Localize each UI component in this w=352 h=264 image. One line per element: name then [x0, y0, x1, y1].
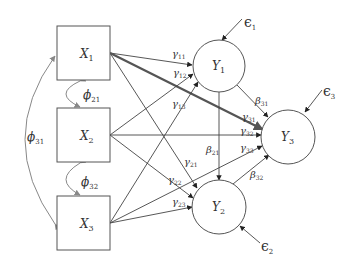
node-x3: X3 — [57, 196, 110, 250]
label-gamma-33: γ33 — [240, 142, 254, 154]
covariance-arc-phi32 — [66, 163, 80, 195]
label-phi-31: ϕ31 — [27, 130, 44, 146]
label-gamma-23: γ23 — [172, 196, 186, 208]
node-x2: X2 — [57, 108, 110, 162]
label-epsilon-3: ϵ3 — [323, 83, 335, 101]
covariance-arc-phi21 — [66, 81, 80, 107]
label-beta-32: β32 — [249, 169, 264, 181]
node-y3: Y3 — [261, 110, 315, 164]
label-phi-32: ϕ32 — [81, 175, 98, 191]
label-epsilon-2: ϵ2 — [261, 238, 273, 256]
node-y2: Y2 — [192, 180, 246, 234]
node-y1: Y1 — [193, 40, 245, 92]
label-beta-31: β31 — [254, 95, 268, 107]
error-arrow-e2 — [240, 226, 260, 243]
error-arrow-e1 — [222, 19, 242, 40]
label-beta-21: β21 — [205, 144, 219, 156]
path-gamma-22 — [110, 135, 193, 198]
label-epsilon-1: ϵ1 — [244, 14, 256, 32]
node-x1: X1 — [57, 26, 110, 80]
label-phi-21: ϕ21 — [83, 88, 100, 104]
path-gamma-23 — [110, 207, 192, 223]
label-gamma-11: γ11 — [172, 48, 186, 60]
label-gamma-31: γ31 — [242, 111, 256, 123]
label-gamma-13: γ13 — [172, 98, 186, 110]
label-gamma-21: γ21 — [184, 156, 198, 168]
label-gamma-32: γ32 — [240, 125, 254, 137]
label-gamma-22: γ22 — [168, 174, 182, 186]
path-diagram: X1 X2 X3 Y1 Y2 Y3 ϵ1 ϵ3 ϵ2 ϕ21 ϕ32 ϕ31 γ… — [0, 0, 352, 264]
label-gamma-12: γ12 — [173, 67, 187, 79]
error-arrow-e3 — [305, 90, 322, 112]
